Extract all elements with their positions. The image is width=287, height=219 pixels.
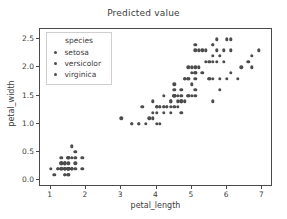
legend-item-virginica[interactable]: virginica: [51, 69, 107, 80]
scatter-point: [194, 77, 197, 80]
y-tick-label: 1.0: [14, 118, 34, 127]
scatter-point: [190, 83, 193, 86]
scatter-point: [169, 105, 172, 108]
scatter-point: [74, 162, 77, 165]
scatter-point: [119, 116, 122, 119]
scatter-point: [130, 122, 133, 125]
scatter-point: [63, 162, 66, 165]
x-tick-mark: [50, 186, 51, 189]
scatter-point: [222, 60, 225, 63]
scatter-point: [197, 66, 200, 69]
scatter-point: [172, 88, 175, 91]
scatter-point: [247, 60, 250, 63]
chart-title: Predicted value: [0, 8, 287, 18]
x-tick-mark: [226, 186, 227, 189]
scatter-point: [190, 71, 193, 74]
scatter-point: [67, 167, 70, 170]
y-tick-mark: [36, 151, 39, 152]
x-tick-label: 5: [188, 190, 193, 199]
x-tick-mark: [120, 186, 121, 189]
x-tick-label: 1: [47, 190, 52, 199]
x-tick-label: 7: [259, 190, 264, 199]
scatter-point: [169, 100, 172, 103]
scatter-point: [218, 77, 221, 80]
legend-entries: setosaversicolorvirginica: [51, 47, 107, 80]
scatter-point: [158, 122, 161, 125]
legend-marker-icon: [54, 62, 57, 65]
scatter-point: [194, 94, 197, 97]
scatter-point: [180, 94, 183, 97]
scatter-point: [169, 111, 172, 114]
scatter-point: [236, 77, 239, 80]
x-tick-mark: [191, 186, 192, 189]
scatter-point: [211, 60, 214, 63]
scatter-point: [211, 54, 214, 57]
scatter-point: [211, 77, 214, 80]
x-tick-label: 3: [118, 190, 123, 199]
scatter-point: [70, 156, 73, 159]
scatter-point: [67, 156, 70, 159]
scatter-point: [52, 173, 55, 176]
scatter-point: [183, 100, 186, 103]
scatter-point: [208, 77, 211, 80]
figure-canvas: Predicted value 12345670.00.51.01.52.02.…: [0, 0, 287, 219]
scatter-point: [81, 167, 84, 170]
legend-marker-icon: [54, 73, 57, 76]
scatter-point: [229, 37, 232, 40]
scatter-point: [151, 100, 154, 103]
scatter-point: [63, 173, 66, 176]
scatter-point: [70, 167, 73, 170]
scatter-point: [229, 49, 232, 52]
scatter-point: [211, 100, 214, 103]
scatter-point: [162, 111, 165, 114]
scatter-point: [176, 100, 179, 103]
scatter-point: [250, 54, 253, 57]
legend-item-versicolor[interactable]: versicolor: [51, 58, 107, 69]
x-axis-label: petal_length: [39, 201, 272, 210]
scatter-point: [211, 43, 214, 46]
scatter-point: [194, 71, 197, 74]
scatter-point: [225, 77, 228, 80]
y-tick-mark: [36, 123, 39, 124]
scatter-point: [74, 167, 77, 170]
scatter-point: [222, 49, 225, 52]
scatter-point: [67, 162, 70, 165]
legend-item-setosa[interactable]: setosa: [51, 47, 107, 58]
scatter-point: [180, 111, 183, 114]
scatter-point: [187, 66, 190, 69]
scatter-point: [158, 105, 161, 108]
y-tick-mark: [36, 66, 39, 67]
scatter-point: [215, 49, 218, 52]
scatter-point: [59, 156, 62, 159]
scatter-point: [194, 88, 197, 91]
x-tick-label: 6: [224, 190, 229, 199]
y-axis-label: petal_width: [7, 69, 16, 139]
scatter-point: [204, 60, 207, 63]
scatter-point: [49, 167, 52, 170]
scatter-point: [144, 122, 147, 125]
scatter-point: [148, 116, 151, 119]
scatter-point: [215, 60, 218, 63]
scatter-point: [194, 43, 197, 46]
scatter-point: [257, 49, 260, 52]
scatter-point: [162, 94, 165, 97]
scatter-point: [250, 66, 253, 69]
scatter-point: [201, 71, 204, 74]
scatter-point: [187, 77, 190, 80]
x-tick-mark: [156, 186, 157, 189]
scatter-point: [240, 66, 243, 69]
x-tick-mark: [85, 186, 86, 189]
scatter-point: [151, 116, 154, 119]
scatter-point: [172, 94, 175, 97]
scatter-point: [165, 105, 168, 108]
scatter-point: [176, 105, 179, 108]
y-tick-label: 1.5: [14, 90, 34, 99]
legend-marker-icon: [54, 51, 57, 54]
scatter-point: [63, 167, 66, 170]
scatter-point: [190, 66, 193, 69]
y-tick-label: 0.5: [14, 147, 34, 156]
scatter-point: [229, 71, 232, 74]
scatter-point: [155, 111, 158, 114]
scatter-point: [218, 88, 221, 91]
x-tick-label: 2: [83, 190, 88, 199]
